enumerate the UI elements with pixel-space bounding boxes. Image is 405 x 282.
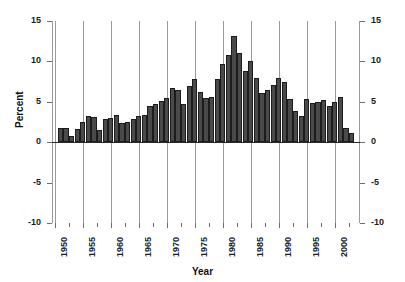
- x-tick-1982.5: [237, 223, 238, 227]
- bar-1954: [75, 129, 80, 142]
- x-label-1975: 1975: [199, 237, 209, 257]
- bar-1991: [282, 82, 287, 142]
- x-label-1950: 1950: [59, 237, 69, 257]
- bar-1970: [164, 98, 169, 142]
- x-tick-1987.5: [265, 223, 266, 227]
- bar-1998: [321, 100, 326, 142]
- x-label-1980: 1980: [227, 237, 237, 257]
- bar-1961: [114, 115, 119, 142]
- x-label-1965: 1965: [143, 237, 153, 257]
- x-tick-1975: [195, 223, 196, 228]
- bar-1995: [304, 99, 309, 143]
- bar-1984: [243, 71, 248, 142]
- y-label-left-10: 10: [15, 56, 41, 65]
- y-axis-title: Percent: [14, 91, 25, 128]
- bar-1978: [209, 97, 214, 142]
- y-label-right--5: -5: [371, 178, 397, 187]
- bar-1959: [103, 119, 108, 142]
- x-tick-1960: [111, 223, 112, 228]
- x-tick-1962.5: [125, 223, 126, 227]
- bar-1974: [187, 86, 192, 142]
- x-label-1960: 1960: [115, 237, 125, 257]
- x-label-1955: 1955: [87, 237, 97, 257]
- bar-1967: [147, 106, 152, 142]
- bar-1975: [192, 79, 197, 142]
- y-label-left-15: 15: [15, 16, 41, 25]
- x-tick-1972.5: [181, 223, 182, 227]
- bar-1986: [254, 78, 259, 142]
- x-tick-1997.5: [321, 223, 322, 227]
- y-label-right-5: 5: [371, 97, 397, 106]
- x-tick-1977.5: [209, 223, 210, 227]
- bar-1996: [310, 103, 315, 143]
- x-tick-1955: [83, 223, 84, 228]
- x-tick-1957.5: [97, 223, 98, 227]
- x-tick-2002.5: [349, 223, 350, 227]
- bar-1966: [142, 115, 147, 142]
- x-tick-1950: [55, 223, 56, 228]
- bar-1980: [220, 64, 225, 142]
- x-label-1995: 1995: [311, 237, 321, 257]
- x-label-1970: 1970: [171, 237, 181, 257]
- bar-2003: [349, 133, 354, 143]
- bar-1964: [131, 119, 136, 142]
- bar-1956: [86, 116, 91, 142]
- x-tick-1952.5: [69, 223, 70, 227]
- bar-1987: [259, 93, 264, 142]
- y-tick-right-0: [360, 142, 365, 143]
- bar-1993: [293, 111, 298, 142]
- bar-1958: [97, 130, 102, 142]
- bar-1960: [108, 118, 113, 142]
- y-tick-right-10: [360, 61, 365, 62]
- bar-1952: [63, 128, 68, 143]
- bar-1979: [215, 79, 220, 142]
- bar-2001: [338, 97, 343, 142]
- x-tick-1965: [139, 223, 140, 228]
- bar-1990: [276, 78, 281, 142]
- bar-1985: [248, 61, 253, 142]
- bar-1999: [327, 106, 332, 142]
- bar-1957: [91, 117, 96, 142]
- x-tick-1990: [279, 223, 280, 228]
- bar-1988: [265, 90, 270, 142]
- bar-2002: [343, 128, 348, 142]
- bar-1997: [315, 102, 320, 142]
- y-label-left--10: -10: [15, 218, 41, 227]
- bar-1969: [159, 101, 164, 142]
- bar-1971: [170, 88, 175, 142]
- bar-1963: [125, 122, 130, 142]
- bar-1989: [271, 85, 276, 142]
- x-tick-2000: [335, 223, 336, 228]
- x-tick-1985: [251, 223, 252, 228]
- y-tick-left--10: [47, 223, 52, 224]
- y-label-right--10: -10: [371, 218, 397, 227]
- x-tick-1995: [307, 223, 308, 228]
- bar-1982: [231, 36, 236, 142]
- x-axis-title: Year: [0, 266, 405, 277]
- bar-1983: [237, 53, 242, 143]
- bar-1992: [287, 99, 292, 143]
- x-tick-1992.5: [293, 223, 294, 227]
- bar-1994: [299, 116, 304, 143]
- bar-1981: [226, 55, 231, 142]
- x-tick-1970: [167, 223, 168, 228]
- bar-1951: [58, 128, 63, 142]
- x-label-1985: 1985: [255, 237, 265, 257]
- bar-series: [52, 21, 360, 223]
- bar-1972: [175, 90, 180, 142]
- plot-area: [52, 21, 360, 223]
- bar-1965: [136, 116, 141, 142]
- y-tick-right--5: [360, 183, 365, 184]
- zero-baseline: [52, 142, 360, 143]
- x-label-1990: 1990: [283, 237, 293, 257]
- x-tick-1967.5: [153, 223, 154, 227]
- x-label-2000: 2000: [339, 237, 349, 257]
- bar-1973: [181, 104, 186, 142]
- chart-figure: 151050-5-10 151050-5-10 1950195519601965…: [0, 0, 405, 282]
- y-tick-right-5: [360, 102, 365, 103]
- x-tick-1980: [223, 223, 224, 228]
- y-label-right-10: 10: [371, 56, 397, 65]
- bar-1962: [119, 123, 124, 142]
- y-tick-right--10: [360, 223, 365, 224]
- y-tick-right-15: [360, 21, 365, 22]
